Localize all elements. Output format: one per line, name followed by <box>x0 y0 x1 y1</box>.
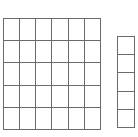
grid-cell <box>52 86 68 108</box>
grid-cell <box>118 73 135 91</box>
grid-cell <box>20 41 36 63</box>
grid-cell <box>4 108 20 130</box>
grid-cell <box>4 41 20 63</box>
grid-cell <box>118 110 135 128</box>
grid-cell <box>118 92 135 110</box>
grid-cell <box>69 86 85 108</box>
figure-canvas <box>0 0 138 137</box>
grid-cell <box>52 108 68 130</box>
grid-cell <box>69 108 85 130</box>
small-grid <box>117 36 135 128</box>
grid-cell <box>36 41 52 63</box>
grid-cell <box>69 41 85 63</box>
grid-cell <box>36 63 52 85</box>
grid-cell <box>36 108 52 130</box>
grid-cell <box>36 19 52 41</box>
grid-cell <box>4 19 20 41</box>
grid-cell <box>20 63 36 85</box>
grid-cell <box>52 63 68 85</box>
grid-cell <box>4 63 20 85</box>
grid-cell <box>52 41 68 63</box>
grid-cell <box>4 86 20 108</box>
grid-cell <box>118 55 135 73</box>
grid-cell <box>118 37 135 55</box>
grid-cell <box>20 19 36 41</box>
grid-cell <box>85 108 101 130</box>
grid-cell <box>20 108 36 130</box>
grid-cell <box>85 41 101 63</box>
grid-cell <box>85 86 101 108</box>
grid-cell <box>85 63 101 85</box>
grid-cell <box>52 19 68 41</box>
grid-cell <box>36 86 52 108</box>
large-grid <box>3 18 101 130</box>
grid-cell <box>69 19 85 41</box>
grid-cell <box>85 19 101 41</box>
grid-cell <box>20 86 36 108</box>
grid-cell <box>69 63 85 85</box>
